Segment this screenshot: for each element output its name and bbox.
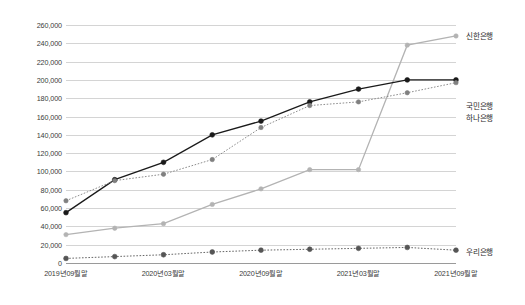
series-legend-labels: 신한은행국민은행하나은행우리은행	[0, 0, 525, 305]
series-label-우리은행: 우리은행	[466, 246, 493, 257]
line-chart: 260,000240,000220,000200,000180,000160,0…	[0, 0, 525, 305]
series-label-하나은행: 하나은행	[466, 112, 493, 123]
series-label-국민은행: 국민은행	[466, 100, 493, 111]
series-label-신한은행: 신한은행	[466, 30, 493, 41]
